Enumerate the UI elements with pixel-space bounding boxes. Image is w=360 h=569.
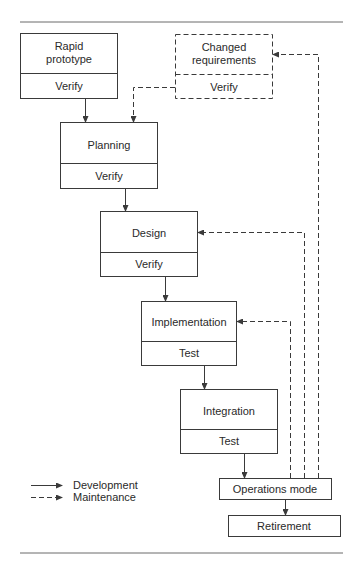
changed-requirements-label-1: Changed — [202, 41, 247, 53]
design-verify: Verify — [135, 258, 163, 270]
retirement-label: Retirement — [257, 520, 311, 532]
design-label: Design — [132, 227, 166, 239]
rapid-prototype-verify: Verify — [55, 80, 83, 92]
rapid-prototype-label-2: prototype — [46, 53, 92, 65]
node-rapid-prototype: Rapid prototype Verify — [21, 34, 118, 99]
integration-label: Integration — [203, 405, 255, 417]
rapid-prototype-label-1: Rapid — [55, 40, 84, 52]
edge-changed-requirements-to-planning — [134, 88, 176, 123]
operations-mode-label: Operations mode — [233, 483, 317, 495]
life-cycle-diagram: Rapid prototype Verify Changed requireme… — [0, 0, 360, 569]
integration-test: Test — [219, 435, 239, 447]
planning-verify: Verify — [95, 170, 123, 182]
node-implementation: Implementation Test — [142, 302, 237, 366]
edge-operations-to-changed-requirements — [273, 55, 319, 479]
implementation-label: Implementation — [151, 316, 226, 328]
changed-requirements-label-2: requirements — [192, 54, 257, 66]
node-planning: Planning Verify — [61, 123, 158, 189]
legend-maintenance-label: Maintenance — [73, 491, 136, 503]
node-operations-mode: Operations mode — [220, 479, 332, 500]
implementation-test: Test — [179, 347, 199, 359]
node-retirement: Retirement — [229, 516, 341, 537]
node-changed-requirements: Changed requirements Verify — [176, 35, 273, 99]
node-design: Design Verify — [101, 212, 198, 277]
planning-label: Planning — [88, 139, 131, 151]
legend-development-label: Development — [73, 479, 138, 491]
legend: Development Maintenance — [31, 479, 138, 503]
changed-requirements-verify: Verify — [210, 81, 238, 93]
node-integration: Integration Test — [181, 390, 278, 454]
